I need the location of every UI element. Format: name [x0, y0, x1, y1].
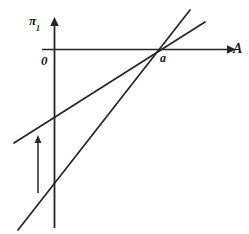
origin-label: 0: [41, 54, 48, 67]
steeper-line: [18, 10, 190, 230]
y-axis: [50, 17, 59, 228]
y-axis-arrowhead-icon: [50, 17, 59, 26]
shift-arrow-head: [35, 135, 42, 143]
y-axis-label-subscript: 1: [36, 24, 40, 33]
x-axis: [42, 45, 236, 54]
figure-canvas: π1 A 0 a: [0, 0, 249, 234]
flatter-line: [14, 22, 205, 143]
shift-arrow-icon: [35, 135, 42, 193]
x-axis-label: A: [233, 42, 242, 56]
intersection-label: a: [160, 52, 166, 64]
diagram-svg: [0, 0, 249, 234]
y-axis-label: π1: [29, 14, 40, 31]
